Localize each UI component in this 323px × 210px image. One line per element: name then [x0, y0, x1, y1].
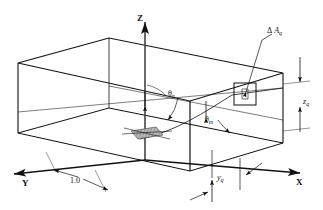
label-y-q: yq: [217, 174, 224, 183]
z-subscript: q: [306, 101, 309, 107]
axis-label-z: Z: [137, 14, 143, 23]
y-subscript: q: [221, 177, 224, 183]
theta-m-subscript: m: [209, 119, 213, 125]
label-area-element: ΔAq: [267, 27, 282, 36]
dimension-z-q: [283, 57, 310, 132]
enclosure-bottom-face: [18, 108, 283, 171]
axis-y-line: [14, 160, 145, 174]
theta-n-subscript: n: [172, 93, 175, 99]
label-theta-m: θm: [205, 116, 213, 125]
dimension-label-unit: 1.0: [70, 177, 80, 185]
label-z-q: zq: [303, 98, 309, 107]
dimension-y-q: [190, 150, 262, 202]
area-subscript: q: [279, 30, 282, 36]
delta-glyph: Δ: [267, 26, 272, 35]
dimension-unit-1: [46, 152, 108, 192]
axis-label-x: X: [296, 178, 303, 187]
axis-label-y: Y: [22, 179, 29, 188]
shaded-surface-patch: [122, 127, 172, 139]
label-theta-n: θn: [168, 90, 175, 99]
construction-line-mid: [18, 86, 283, 120]
